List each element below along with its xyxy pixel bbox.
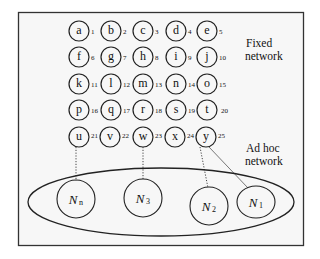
svg-text:N: N	[135, 191, 146, 206]
adhoc-network-label-line2: network	[245, 155, 283, 167]
svg-text:13: 13	[155, 81, 163, 89]
svg-text:w: w	[139, 129, 148, 143]
svg-text:k: k	[76, 76, 82, 90]
svg-text:n: n	[173, 76, 179, 90]
svg-text:p: p	[76, 102, 82, 116]
svg-text:2: 2	[123, 28, 127, 36]
svg-text:u: u	[76, 129, 82, 143]
svg-text:4: 4	[188, 28, 192, 36]
svg-text:a: a	[76, 23, 82, 37]
fixed-network-label-line2: network	[245, 50, 283, 62]
svg-text:25: 25	[218, 132, 226, 140]
network-diagram: a1 b2 c3 d4 e5 f6 g7 h8 i9 j10 k11 l12 m…	[0, 0, 320, 259]
svg-text:g: g	[108, 49, 114, 63]
svg-text:23: 23	[155, 132, 163, 140]
svg-text:12: 12	[123, 81, 131, 89]
svg-text:b: b	[108, 23, 114, 37]
svg-text:7: 7	[123, 54, 127, 62]
svg-text:1: 1	[259, 201, 263, 210]
svg-text:8: 8	[155, 54, 159, 62]
svg-text:h: h	[140, 49, 146, 63]
svg-text:N: N	[68, 192, 79, 207]
svg-text:15: 15	[219, 81, 227, 89]
svg-text:N: N	[201, 199, 212, 214]
svg-text:14: 14	[188, 81, 196, 89]
svg-text:5: 5	[219, 28, 223, 36]
svg-text:N: N	[248, 195, 259, 210]
svg-text:11: 11	[91, 81, 98, 89]
svg-text:1: 1	[91, 28, 95, 36]
svg-text:r: r	[141, 102, 145, 116]
svg-text:3: 3	[155, 28, 159, 36]
svg-text:f: f	[77, 49, 81, 63]
svg-text:18: 18	[155, 107, 163, 115]
svg-text:x: x	[172, 129, 178, 143]
svg-text:c: c	[140, 23, 145, 37]
svg-text:10: 10	[219, 54, 227, 62]
svg-text:6: 6	[91, 54, 95, 62]
svg-text:d: d	[173, 23, 179, 37]
svg-text:17: 17	[123, 107, 131, 115]
svg-text:22: 22	[122, 132, 130, 140]
svg-text:o: o	[204, 76, 210, 90]
adhoc-network-label-line1: Ad hoc	[246, 142, 280, 154]
svg-text:20: 20	[221, 107, 229, 115]
svg-text:n: n	[79, 198, 83, 207]
svg-text:v: v	[107, 129, 113, 143]
svg-text:m: m	[138, 76, 148, 90]
svg-text:19: 19	[188, 107, 196, 115]
svg-text:21: 21	[91, 132, 99, 140]
svg-text:y: y	[203, 129, 209, 143]
svg-text:2: 2	[212, 205, 216, 214]
svg-text:e: e	[204, 23, 209, 37]
svg-text:s: s	[174, 102, 179, 116]
svg-text:3: 3	[146, 197, 150, 206]
svg-text:j: j	[204, 49, 208, 63]
svg-text:9: 9	[188, 54, 192, 62]
svg-text:q: q	[108, 102, 114, 116]
svg-text:24: 24	[187, 132, 195, 140]
svg-text:16: 16	[91, 107, 99, 115]
fixed-network-label-line1: Fixed	[246, 37, 272, 49]
